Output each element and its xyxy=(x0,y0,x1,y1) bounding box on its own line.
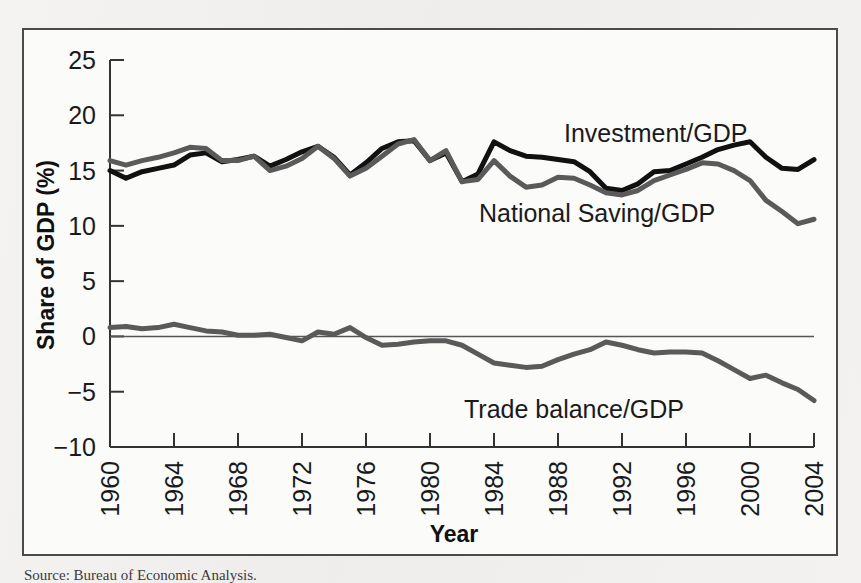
x-tick-label: 2000 xyxy=(736,461,764,517)
source-note: Source: Bureau of Economic Analysis. xyxy=(24,567,724,583)
annotation-national-saving-gdp: National Saving/GDP xyxy=(479,199,715,227)
x-tick-label: 1964 xyxy=(160,461,188,517)
x-tick-label: 1960 xyxy=(96,461,124,517)
x-tick-label: 1984 xyxy=(480,461,508,517)
y-tick-label-group: 2520151050−5−10 xyxy=(54,46,96,461)
y-tick-label: 20 xyxy=(68,101,96,129)
y-tick-label: 25 xyxy=(68,46,96,74)
x-tick-label: 1988 xyxy=(544,461,572,517)
x-axis-title: Year xyxy=(430,521,479,547)
x-tick-label: 1996 xyxy=(672,461,700,517)
x-tick-label: 2004 xyxy=(800,461,828,517)
x-tick-label: 1980 xyxy=(416,461,444,517)
y-tick-label: −10 xyxy=(54,433,96,461)
y-tick-label: 15 xyxy=(68,157,96,185)
y-tick-label: 0 xyxy=(82,322,96,350)
line-chart: 2520151050−5−10 196019641968197219761980… xyxy=(24,30,836,554)
page-background: 2520151050−5−10 196019641968197219761980… xyxy=(0,0,861,583)
y-tick-label: 5 xyxy=(82,267,96,295)
x-tick-label: 1976 xyxy=(352,461,380,517)
y-tick-label: −5 xyxy=(67,378,96,406)
annotation-trade-balance-gdp: Trade balance/GDP xyxy=(464,395,684,423)
y-tick-label: 10 xyxy=(68,212,96,240)
annotation-investment-gdp: Investment/GDP xyxy=(564,119,747,147)
x-tick-label: 1968 xyxy=(224,461,252,517)
x-tick-label-group: 1960196419681972197619801984198819921996… xyxy=(96,461,828,517)
x-tick-label: 1992 xyxy=(608,461,636,517)
data-series-group xyxy=(110,140,814,401)
y-axis-title: Share of GDP (%) xyxy=(33,160,59,350)
x-tick-group xyxy=(110,433,814,447)
y-tick-group xyxy=(110,60,124,447)
x-tick-label: 1972 xyxy=(288,461,316,517)
figure-frame: 2520151050−5−10 196019641968197219761980… xyxy=(22,28,838,556)
